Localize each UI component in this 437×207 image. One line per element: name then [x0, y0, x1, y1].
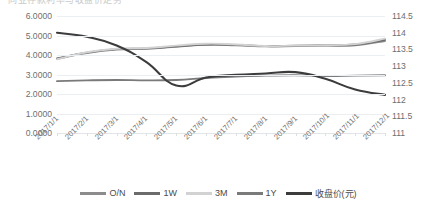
y-axis-left-label: 3.0000	[26, 70, 52, 80]
y-axis-right-label: 112	[392, 95, 406, 105]
chart-title-strip: 同业存款利率与收盘价走势	[0, 0, 437, 7]
legend-item[interactable]: O/N	[80, 188, 125, 198]
legend-label: 收盘价(元)	[315, 187, 357, 200]
legend-swatch-icon	[286, 192, 312, 195]
y-axis-left-label: 4.0000	[26, 50, 52, 60]
y-axis-left: 6.00005.00004.00003.00002.00001.00000.00…	[0, 16, 52, 133]
y-axis-right-label: 111.5	[392, 111, 412, 121]
gridline	[57, 75, 385, 76]
legend-swatch-icon	[237, 192, 263, 195]
series-line-	[57, 33, 385, 95]
chart-legend: O/N1W3M1Y收盘价(元)	[0, 185, 437, 201]
y-axis-right-label: 113	[392, 61, 406, 71]
legend-swatch-icon	[186, 192, 212, 195]
chart-container: 同业存款利率与收盘价走势 6.00005.00004.00003.00002.0…	[0, 0, 437, 207]
legend-item[interactable]: 1Y	[237, 188, 277, 198]
y-axis-left-label: 2.0000	[26, 89, 52, 99]
legend-label: 3M	[215, 188, 228, 198]
x-axis-tick	[385, 133, 386, 136]
gridline	[57, 36, 385, 37]
legend-label: O/N	[109, 188, 125, 198]
legend-item[interactable]: 3M	[186, 188, 228, 198]
y-axis-right-label: 112.5	[392, 78, 413, 88]
legend-label: 1Y	[266, 188, 277, 198]
gridline	[57, 55, 385, 56]
legend-label: 1W	[163, 188, 177, 198]
gridline	[57, 94, 385, 95]
gridline	[57, 16, 385, 17]
y-axis-right-label: 114.5	[392, 11, 413, 21]
legend-item[interactable]: 收盘价(元)	[286, 187, 357, 200]
y-axis-right-label: 113.5	[392, 44, 413, 54]
x-axis-labels: 2017/1/12017/2/12017/3/12017/4/12017/5/1…	[57, 135, 385, 179]
y-axis-right-label: 111	[392, 128, 405, 138]
legend-swatch-icon	[134, 192, 160, 195]
y-axis-right-label: 114	[392, 28, 406, 38]
y-axis-right: 114.5114113.5113112.5112111.5111	[392, 16, 437, 133]
legend-item[interactable]: 1W	[134, 188, 177, 198]
y-axis-left-label: 5.0000	[26, 31, 52, 41]
chart-title: 同业存款利率与收盘价走势	[8, 0, 122, 6]
legend-swatch-icon	[80, 192, 106, 195]
y-axis-left-label: 1.0000	[26, 109, 52, 119]
gridline	[57, 114, 385, 115]
plot-area	[57, 16, 385, 133]
y-axis-left-label: 6.0000	[26, 11, 52, 21]
